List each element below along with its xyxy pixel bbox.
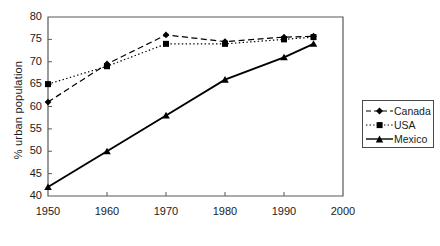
legend-label-usa: USA xyxy=(394,119,416,131)
legend-swatch-mexico xyxy=(366,133,393,145)
y-tick-label: 55 xyxy=(16,123,42,134)
y-tick-label: 65 xyxy=(16,78,42,89)
legend-item-mexico: Mexico xyxy=(366,132,430,146)
y-tick-label: 50 xyxy=(16,145,42,156)
data-point xyxy=(311,34,317,40)
x-tick-label: 1990 xyxy=(264,206,304,217)
y-tick-label: 70 xyxy=(16,56,42,67)
legend-label-mexico: Mexico xyxy=(394,133,427,145)
data-point xyxy=(222,41,228,47)
legend-item-canada: Canada xyxy=(366,104,430,118)
x-tick-label: 1970 xyxy=(146,206,186,217)
data-point xyxy=(163,32,170,39)
y-tick-label: 40 xyxy=(16,190,42,201)
x-tick-label: 1950 xyxy=(28,206,68,217)
data-point xyxy=(281,36,287,42)
data-point xyxy=(163,41,169,47)
y-tick-label: 80 xyxy=(16,11,42,22)
chart-figure: % urban population 404550556065707580 19… xyxy=(0,0,440,246)
data-point xyxy=(45,99,52,106)
series-mexico xyxy=(44,40,317,190)
x-tick-label: 1980 xyxy=(205,206,245,217)
data-point xyxy=(104,63,110,69)
y-tick-label: 45 xyxy=(16,168,42,179)
data-point xyxy=(45,81,51,87)
y-tick-label: 60 xyxy=(16,101,42,112)
data-point xyxy=(310,40,318,47)
y-tick-label: 75 xyxy=(16,33,42,44)
legend-swatch-usa xyxy=(366,119,393,131)
legend-swatch-canada xyxy=(366,105,393,117)
series-canada xyxy=(45,32,317,106)
legend-label-canada: Canada xyxy=(394,105,431,117)
x-tick-label: 1960 xyxy=(87,206,127,217)
legend-item-usa: USA xyxy=(366,118,430,132)
x-tick-label: 2000 xyxy=(323,206,363,217)
chart-legend: Canada USA Mexico xyxy=(362,100,434,148)
